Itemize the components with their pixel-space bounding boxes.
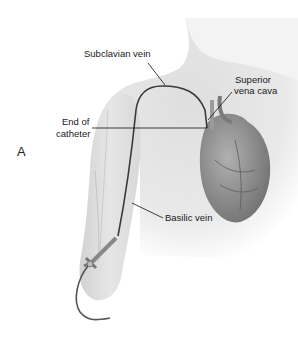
label-subclavian-vein: Subclavian vein: [84, 49, 151, 59]
label-end-of-catheter-2: catheter: [56, 129, 90, 139]
label-basilic-vein: Basilic vein: [165, 213, 213, 223]
panel-label: A: [17, 144, 26, 159]
label-superior-vena-cava-2: vena cava: [234, 86, 277, 96]
label-end-of-catheter-1: End of: [62, 117, 89, 127]
label-superior-vena-cava-1: Superior: [235, 75, 271, 85]
